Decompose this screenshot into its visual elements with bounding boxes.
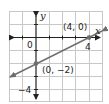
x-tick-label-4: 4 <box>85 42 91 52</box>
origin-label: 0 <box>27 40 33 50</box>
y-tick-label-neg4: −4 <box>18 85 32 95</box>
point-4-0 <box>87 35 92 40</box>
y-axis-label: y <box>39 10 46 21</box>
x-axis-label: x <box>95 25 101 36</box>
point-label-4-0: (4, 0) <box>63 22 87 32</box>
point-0-neg2 <box>34 61 39 66</box>
coordinate-plane: y x 0 4 −4 (4, 0) (0, −2) <box>0 0 109 104</box>
point-label-0-neg2: (0, −2) <box>42 65 74 75</box>
